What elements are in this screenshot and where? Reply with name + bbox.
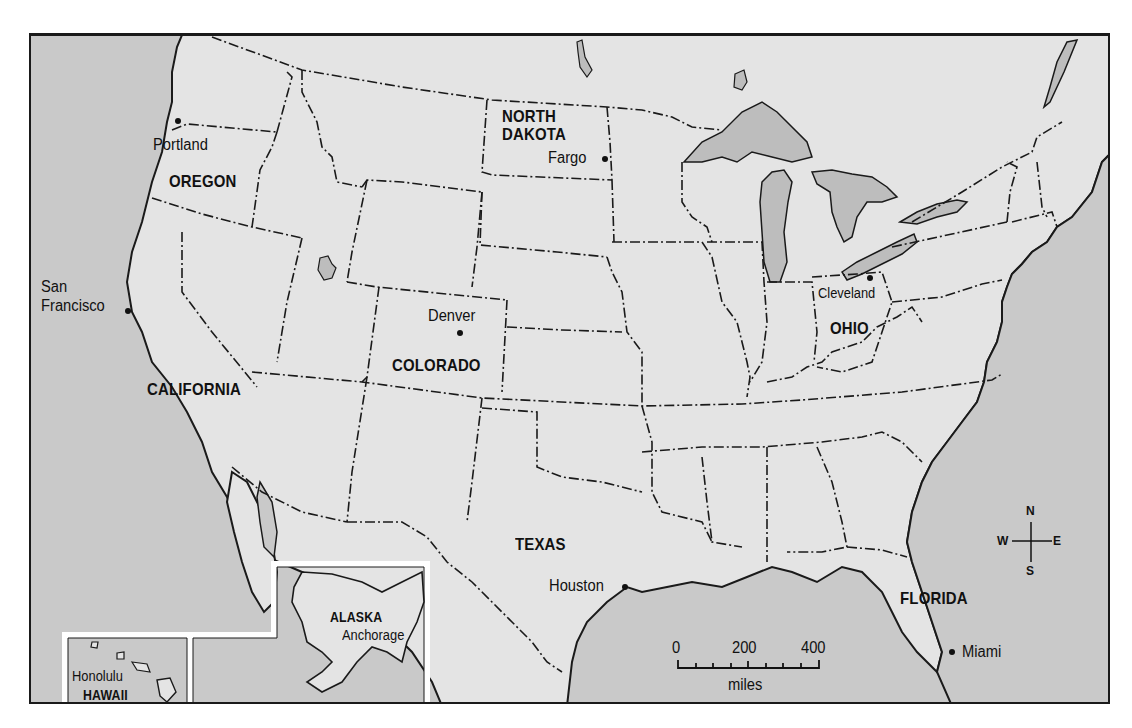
scale-unit-label: miles [728, 677, 762, 693]
label-north-dakota-line2: DAKOTA [502, 126, 566, 143]
label-florida: FLORIDA [900, 590, 968, 607]
label-north-dakota-line1: NORTH [502, 108, 556, 125]
us-map: OREGON NORTH DAKOTA CALIFORNIA COLORADO … [29, 33, 1110, 704]
label-miami: Miami [962, 644, 1001, 660]
scale-label-400: 400 [801, 640, 826, 656]
label-ohio: OHIO [830, 320, 869, 337]
label-houston: Houston [549, 578, 604, 594]
label-texas: TEXAS [515, 536, 566, 553]
label-san-francisco-line1: San [41, 279, 67, 295]
label-alaska: ALASKA [330, 610, 382, 624]
label-portland: Portland [153, 137, 208, 153]
scale-label-200: 200 [732, 640, 757, 656]
label-honolulu: Honolulu [72, 669, 123, 683]
compass-n: N [1026, 505, 1035, 517]
hawaii-island [157, 678, 176, 702]
label-california: CALIFORNIA [147, 381, 241, 398]
label-anchorage: Anchorage [342, 628, 404, 642]
compass-w: W [997, 535, 1008, 547]
scale-bar-graphic [678, 660, 819, 668]
label-hawaii: HAWAII [83, 688, 128, 702]
label-cleveland: Cleveland [818, 286, 875, 300]
scale-label-0: 0 [672, 640, 680, 656]
compass-e: E [1053, 535, 1061, 547]
label-fargo: Fargo [548, 150, 586, 166]
label-oregon: OREGON [169, 173, 237, 190]
compass-s: S [1026, 565, 1034, 577]
label-denver: Denver [428, 308, 475, 324]
label-san-francisco-line2: Francisco [41, 298, 105, 314]
label-colorado: COLORADO [392, 357, 481, 374]
